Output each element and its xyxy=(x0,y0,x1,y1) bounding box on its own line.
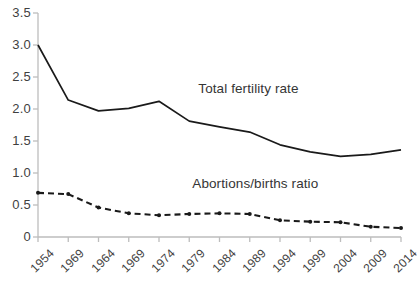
series-annotation-label: Abortions/births ratio xyxy=(192,176,318,191)
series-marker-1 xyxy=(187,212,191,216)
y-axis-tick-label: 0.5 xyxy=(0,197,31,212)
series-marker-1 xyxy=(308,220,312,224)
series-line-1 xyxy=(38,193,401,228)
series-line-0 xyxy=(38,45,401,156)
y-axis-tick-label: 3.0 xyxy=(0,37,31,52)
y-axis-tick-label: 0 xyxy=(0,229,31,244)
y-axis-tick-label: 1.0 xyxy=(0,165,31,180)
line-chart-plot xyxy=(0,0,417,283)
y-axis-tick-label: 2.0 xyxy=(0,101,31,116)
y-axis-tick-label: 1.5 xyxy=(0,133,31,148)
series-marker-1 xyxy=(399,226,403,230)
series-marker-1 xyxy=(369,225,373,229)
chart-container: 3.53.02.52.01.51.00.50195419691964196919… xyxy=(0,0,417,283)
y-axis-tick-label: 2.5 xyxy=(0,69,31,84)
series-marker-1 xyxy=(97,206,101,210)
series-marker-1 xyxy=(36,191,40,195)
y-axis-tick-label: 3.5 xyxy=(0,5,31,20)
series-marker-1 xyxy=(278,218,282,222)
series-marker-1 xyxy=(248,212,252,216)
series-marker-1 xyxy=(157,213,161,217)
series-marker-1 xyxy=(127,211,131,215)
series-marker-1 xyxy=(339,220,343,224)
series-annotation-label: Total fertility rate xyxy=(198,81,298,96)
series-marker-1 xyxy=(218,211,222,215)
series-marker-1 xyxy=(66,192,70,196)
